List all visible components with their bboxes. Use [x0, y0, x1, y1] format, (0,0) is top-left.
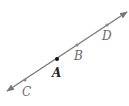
point-a [55, 57, 59, 61]
point-c [23, 78, 26, 81]
label-c: C [22, 85, 31, 99]
point-d [105, 23, 108, 26]
point-b [75, 43, 78, 46]
label-d: D [101, 29, 112, 43]
label-a: A [51, 66, 61, 80]
line-diagram: C A B D [0, 0, 129, 106]
label-b: B [73, 49, 83, 63]
